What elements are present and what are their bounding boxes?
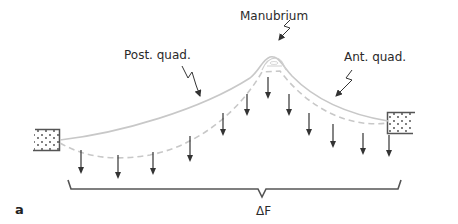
arrow-head-icon [244,109,250,116]
right-fixation-box [388,113,416,134]
loaded-curve [60,71,388,158]
arrow-head-icon [187,155,193,162]
ant-quad-pointer [336,70,352,96]
arrow-head-icon [220,129,226,136]
delta-f-label: ΔF [256,205,271,217]
arrow-head-icon [360,148,366,155]
arrow-head-icon [330,141,336,148]
manubrium-label: Manubrium [240,10,308,22]
tongue-force-diagram [0,0,458,224]
left-fixation-box [33,130,60,151]
delta-f-brace [68,180,401,197]
manubrium-pointer [279,20,290,40]
ant-quad-label: Ant. quad. [344,51,406,63]
post-quad-pointer [182,66,200,96]
arrow-head-icon [150,168,156,175]
arrow-head-icon [386,150,392,157]
diagram-canvas: Manubrium Post. quad. Ant. quad. ΔF a [0,0,458,224]
arrow-head-icon [306,129,312,136]
post-quad-label: Post. quad. [124,49,191,61]
resting-curve [60,57,388,140]
arrow-head-icon [115,172,121,179]
arrow-head-icon [78,167,84,174]
arrow-head-icon [286,109,292,116]
arrow-head-icon [265,92,271,99]
panel-label: a [15,202,24,217]
